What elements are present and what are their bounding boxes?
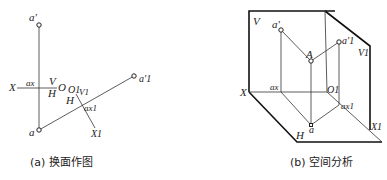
v-plane-edge [249,11,335,92]
x1-axis [327,92,382,142]
ax-to-a [281,92,311,125]
projection-diagram: a' a X ax V H O O1 V1 H ax1 X1 a'1 (a) 换… [0,0,387,180]
point-a [37,128,41,132]
figure-a-construction: a' a X ax V H O O1 V1 H ax1 X1 a'1 [8,11,151,139]
point-a1-prime [337,40,341,44]
label-a: a [309,124,314,135]
label-a1-prime: a'1 [139,73,151,84]
label-O1: O1 [327,84,339,95]
label-X1: X1 [90,128,102,139]
label-O: O [58,81,66,93]
label-H: H [295,129,305,141]
label-V: V [49,75,57,87]
label-ax1: ax1 [341,101,354,111]
label-V1: V1 [79,87,89,97]
label-H: H [47,87,57,99]
label-a-prime: a' [29,11,38,23]
point-a1-prime [132,74,136,78]
label-a: a [29,126,35,138]
caption-a: (a) 换面作图 [30,155,93,169]
label-X1: X1 [370,121,382,132]
label-X: X [239,86,248,98]
label-X: X [8,81,17,93]
label-ax: ax [270,82,279,92]
label-a-prime: a' [272,18,281,30]
label-V1: V1 [358,47,369,58]
caption-b: (b) 空间分析 [290,155,353,169]
label-V: V [253,15,261,27]
a-to-ax1 [311,105,339,125]
label-a1-prime: a'1 [342,35,354,46]
point-a-prime [37,23,41,27]
label-A: A [305,48,313,60]
figure-b-spatial: V a' A a'1 V1 X ax O1 ax1 a H X1 [239,11,382,142]
A-to-a1-prime [311,42,339,61]
label-H2: H [65,94,75,106]
v1-plane-edge [325,11,370,130]
h-plane-edge [249,92,382,142]
label-ax1: ax1 [84,103,97,113]
label-ax: ax [26,78,35,88]
